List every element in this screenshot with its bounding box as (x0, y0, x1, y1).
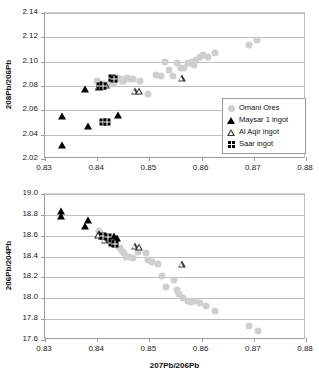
x-axis-tick (202, 338, 203, 342)
x-axis-ticklabel: 0.85 (141, 164, 157, 172)
y-axis-tick (41, 215, 45, 216)
y-axis-tick (41, 37, 45, 38)
gridline (45, 319, 304, 320)
x-axis-tick (149, 157, 150, 161)
open-triangle-icon (227, 129, 235, 136)
ore-point-icon (212, 307, 219, 314)
data-point (84, 216, 92, 223)
legend-item: Saar ingot (226, 138, 301, 150)
gridline (45, 13, 304, 14)
legend-item: Maysar 1 ingot (226, 114, 301, 126)
open-triangle-icon (178, 74, 186, 81)
x-axis-tick (202, 157, 203, 161)
filled-triangle-icon (84, 123, 92, 130)
open-triangle-icon (135, 244, 143, 251)
gray-circle-icon (226, 103, 236, 113)
legend-item: Al Aqir ingot (226, 126, 301, 138)
data-point (81, 86, 89, 93)
data-point (170, 72, 177, 79)
ore-point-icon (254, 37, 261, 44)
data-point (212, 50, 219, 57)
data-point (58, 142, 66, 149)
y-axis-tick (41, 319, 45, 320)
x-axis-tick (306, 157, 307, 161)
data-point (178, 74, 186, 81)
lead-isotope-figure: 208Pb/206Pb 2.022.042.062.082.102.122.14… (0, 0, 319, 380)
gridline (45, 298, 304, 299)
x-axis-ticklabel: 0.84 (88, 345, 104, 353)
data-point (202, 302, 209, 309)
y-axis-ticklabel: 18.8 (22, 210, 38, 218)
ore-point-icon (212, 50, 219, 57)
data-point (157, 72, 164, 79)
y-axis-ticklabel: 2.12 (22, 32, 38, 40)
ore-point-icon (154, 260, 161, 267)
y-axis-ticklabel: 18.4 (22, 252, 38, 260)
y-axis-tick (41, 62, 45, 63)
x-axis-ticklabels-bottom: 0.830.840.850.860.870.88 (44, 345, 305, 355)
y-axis-ticklabel: 2.04 (22, 130, 38, 138)
open-triangle-icon (178, 260, 186, 267)
x-axis-tick (45, 157, 46, 161)
chart-panel-top: 208Pb/206Pb 2.022.042.062.082.102.122.14… (0, 0, 319, 188)
y-axis-ticklabel: 18.2 (22, 272, 38, 280)
data-point (159, 272, 166, 279)
y-axis-ticklabel: 2.06 (22, 105, 38, 113)
ore-point-icon (163, 284, 170, 291)
ore-point-icon (144, 90, 151, 97)
data-point (178, 260, 186, 267)
y-axis-tick (41, 298, 45, 299)
x-axis-ticklabel: 0.85 (141, 345, 157, 353)
x-axis-ticklabel: 0.83 (36, 345, 52, 353)
y-axis-tick (41, 277, 45, 278)
ore-point-icon (254, 328, 261, 335)
data-point (84, 123, 92, 130)
x-axis-tick (306, 338, 307, 342)
gridline (45, 37, 304, 38)
legend-label: Omani Ores (239, 103, 279, 113)
x-axis-ticklabel: 0.84 (88, 164, 104, 172)
data-point (163, 284, 170, 291)
y-axis-ticklabel: 18.6 (22, 231, 38, 239)
filled-triangle-icon (226, 115, 236, 125)
chart-panel-bottom: 206Pb/204Pb 17.617.818.018.218.418.618.8… (0, 185, 319, 380)
gridline (45, 257, 304, 258)
open-triangle-icon (226, 127, 236, 137)
y-axis-ticklabel: 19.0 (22, 189, 38, 197)
plot-area-bottom (44, 193, 305, 339)
filled-triangle-icon (114, 112, 122, 119)
chart-legend: Omani OresMaysar 1 ingotAl Aqir ingotSaa… (222, 98, 306, 154)
y-axis-ticklabels-top: 2.022.042.062.082.102.122.14 (0, 12, 38, 158)
y-axis-tick (41, 135, 45, 136)
waffle-square-icon (228, 141, 235, 148)
data-point (254, 328, 261, 335)
data-point (129, 75, 136, 82)
x-axis-ticklabel: 0.87 (245, 164, 261, 172)
data-point (171, 276, 178, 283)
data-point (58, 113, 66, 120)
data-point (204, 54, 211, 61)
ore-point-icon (129, 75, 136, 82)
ore-point-icon (157, 72, 164, 79)
y-axis-ticklabel: 18.0 (22, 293, 38, 301)
data-point (100, 83, 107, 90)
filled-triangle-icon (57, 212, 65, 219)
data-point (81, 223, 89, 230)
ore-point-icon (159, 272, 166, 279)
legend-item: Omani Ores (226, 102, 301, 114)
y-axis-ticklabel: 2.14 (22, 8, 38, 16)
data-point (212, 307, 219, 314)
x-axis-ticklabel: 0.86 (193, 164, 209, 172)
x-axis-ticklabel: 0.83 (36, 164, 52, 172)
ore-point-icon (204, 54, 211, 61)
y-axis-tick (41, 13, 45, 14)
y-axis-tick (41, 110, 45, 111)
open-triangle-icon (135, 88, 143, 95)
x-axis-ticklabel: 0.87 (245, 345, 261, 353)
y-axis-ticklabel: 2.10 (22, 57, 38, 65)
filled-triangle-icon (58, 142, 66, 149)
y-axis-tick (41, 86, 45, 87)
ore-point-icon (228, 105, 235, 112)
y-axis-tick (41, 194, 45, 195)
legend-label: Saar ingot (239, 139, 273, 149)
